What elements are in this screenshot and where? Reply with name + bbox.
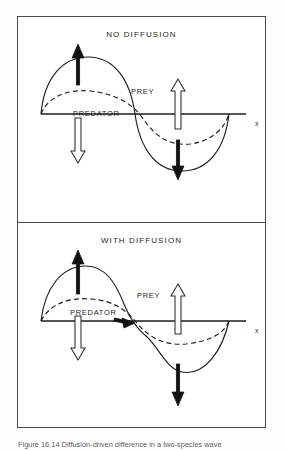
arrow-down-hollow-left <box>71 118 85 163</box>
predator-label-bottom: PREDATOR <box>70 308 117 317</box>
arrow-up-solid-left <box>72 44 84 85</box>
prey-curve-solid <box>41 266 229 372</box>
figure-caption: Figure 16.14 Diffusion-driven difference… <box>18 440 268 451</box>
figure-root: NO DIFFUSION <box>0 0 285 451</box>
arrow-down-solid-right <box>172 364 184 406</box>
arrow-up-hollow-right <box>171 79 185 129</box>
predator-label-top: PREDATOR <box>73 109 120 118</box>
plot-with-diffusion <box>18 224 265 429</box>
arrow-down-solid-right <box>172 140 184 180</box>
prey-label-top: PREY <box>131 87 154 96</box>
panel-no-diffusion: NO DIFFUSION <box>18 17 265 223</box>
x-axis-label-bottom: x <box>255 327 259 334</box>
arrow-up-solid-left <box>72 250 84 294</box>
panel-divider <box>17 222 266 223</box>
arrow-up-hollow-right <box>171 284 185 334</box>
x-axis-label-top: x <box>255 120 259 127</box>
prey-label-bottom: PREY <box>137 291 160 300</box>
arrow-down-hollow-left <box>71 316 85 360</box>
panel-with-diffusion: WITH DIFFUSION <box>18 224 265 429</box>
plot-no-diffusion <box>18 17 265 223</box>
